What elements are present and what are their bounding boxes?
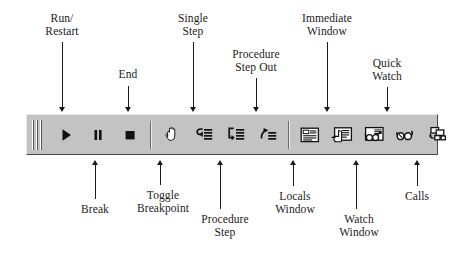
callout-label-quick-watch: Quick Watch (372, 57, 402, 82)
debug-toolbar[interactable] (26, 114, 438, 155)
leader-line-single-step (193, 42, 194, 108)
calls-button[interactable] (423, 120, 453, 150)
step-over-arrow-lines-icon (226, 125, 246, 145)
callout-label-watch-window: Watch Window (339, 213, 379, 238)
end-button[interactable] (115, 120, 145, 150)
immediate-window-button[interactable] (327, 120, 357, 150)
single-step-button[interactable] (189, 120, 219, 150)
leader-line-locals-window (293, 165, 294, 186)
play-triangle-icon (58, 127, 74, 143)
hand-icon (162, 125, 182, 145)
callout-label-procedure-step-out: Procedure Step Out (232, 48, 280, 73)
stop-square-icon (122, 127, 138, 143)
leader-line-quick-watch (387, 87, 388, 108)
pause-bars-icon (90, 127, 106, 143)
procedure-step-button[interactable] (221, 120, 251, 150)
leader-line-run-restart (62, 42, 63, 108)
calls-stack-boxes-icon (427, 125, 449, 145)
callout-label-toggle-breakpoint: Toggle Breakpoint (137, 189, 189, 214)
procedure-step-out-button[interactable] (253, 120, 283, 150)
run-restart-button[interactable] (51, 120, 81, 150)
toolbar-separator-1 (150, 121, 152, 149)
arrowhead-single-step (190, 107, 196, 112)
break-button[interactable] (83, 120, 113, 150)
locals-window-icon (299, 125, 321, 145)
debug-toolbar-figure: Run/ Restart Single Step Procedure Step … (0, 0, 459, 269)
toggle-breakpoint-button[interactable] (157, 120, 187, 150)
toolbar-drag-grip[interactable] (31, 120, 43, 150)
step-out-arrow-lines-icon (258, 125, 278, 145)
callout-label-break: Break (81, 203, 109, 216)
arrowhead-run-restart (59, 107, 65, 112)
watch-window-glasses-icon (362, 125, 386, 145)
callout-label-immediate-window: Immediate Window (302, 12, 352, 37)
locals-window-button[interactable] (295, 120, 325, 150)
callout-label-run-restart: Run/ Restart (45, 12, 78, 37)
leader-line-toggle-breakpoint (160, 165, 161, 185)
immediate-window-hand-icon (330, 125, 354, 145)
leader-line-immediate-window (327, 42, 328, 108)
toolbar-separator-2 (288, 121, 290, 149)
callout-label-calls: Calls (405, 190, 429, 203)
arrowhead-procedure-step-out (253, 107, 259, 112)
step-into-arrow-lines-icon (194, 125, 214, 145)
callout-label-end: End (119, 68, 138, 81)
arrowhead-immediate-window (324, 107, 330, 112)
leader-line-calls (417, 165, 418, 186)
arrowhead-quick-watch (384, 107, 390, 112)
leader-line-watch-window (356, 165, 357, 209)
leader-line-end (128, 86, 129, 108)
quick-watch-glasses-icon (394, 125, 418, 145)
arrowhead-end (125, 107, 131, 112)
leader-line-procedure-step (220, 165, 221, 209)
quick-watch-button[interactable] (391, 120, 421, 150)
leader-line-procedure-step-out (256, 78, 257, 108)
callout-label-locals-window: Locals Window (275, 190, 315, 215)
callout-label-single-step: Single Step (178, 12, 208, 37)
callout-label-procedure-step: Procedure Step (201, 213, 249, 238)
watch-window-button[interactable] (359, 120, 389, 150)
leader-line-break (95, 165, 96, 199)
